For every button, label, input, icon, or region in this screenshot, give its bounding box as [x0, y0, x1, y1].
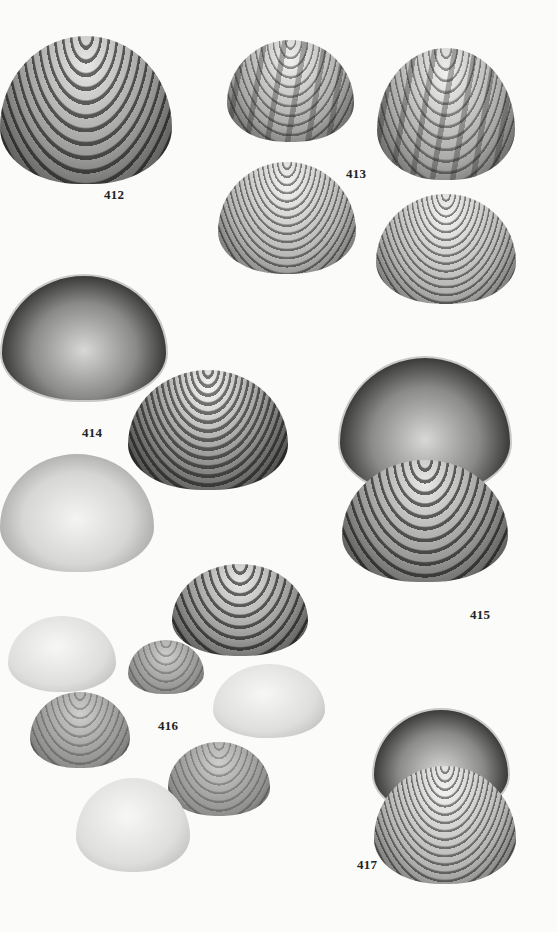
shell-412 [0, 36, 172, 184]
figure-label-412: 412 [104, 187, 124, 203]
shell-416-small [128, 640, 204, 694]
shell-416-pale-right [213, 664, 325, 738]
shell-416-large [172, 564, 308, 656]
figure-label-417: 417 [357, 857, 377, 873]
shell-413-c [218, 162, 356, 274]
shell-413-a [227, 40, 354, 142]
shell-416-mid-right [168, 742, 270, 816]
shell-414-interior-top [0, 274, 168, 402]
shell-414-exterior [128, 370, 288, 490]
figure-label-413: 413 [346, 166, 366, 182]
shell-416-pale-left [8, 616, 116, 692]
shell-414-interior-bottom [0, 454, 154, 572]
figure-label-415: 415 [470, 607, 490, 623]
shell-413-d [376, 194, 516, 304]
figure-label-414: 414 [82, 425, 102, 441]
shell-416-mid-left [30, 692, 130, 768]
shell-413-b [377, 48, 515, 180]
figure-label-416: 416 [158, 718, 178, 734]
